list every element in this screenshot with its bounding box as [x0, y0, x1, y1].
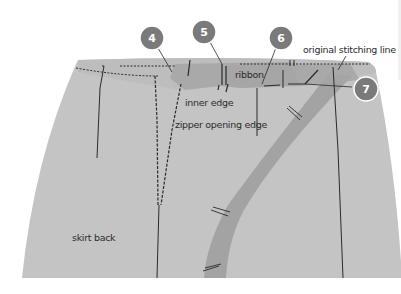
- label-skirt-back: skirt back: [72, 232, 116, 243]
- callout-badge-7: 7: [354, 77, 378, 101]
- label-inner-edge: inner edge: [185, 97, 234, 108]
- svg-text:6: 6: [277, 32, 285, 45]
- label-original-stitching-line: original stitching line: [303, 44, 396, 55]
- label-ribbon: ribbon: [235, 69, 264, 80]
- callout-badge-6: 6: [269, 26, 293, 50]
- svg-text:5: 5: [200, 26, 208, 39]
- label-zipper-opening-edge: zipper opening edge: [175, 119, 267, 130]
- svg-text:7: 7: [362, 83, 370, 96]
- skirt-diagram: 4 5 6 7 original stitching line ribbon i…: [0, 0, 401, 294]
- svg-text:4: 4: [148, 32, 156, 45]
- callout-badge-5: 5: [192, 20, 216, 44]
- callout-badge-4: 4: [140, 26, 164, 50]
